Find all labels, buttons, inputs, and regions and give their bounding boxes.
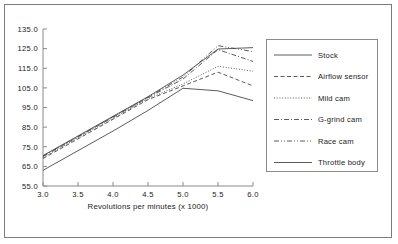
y-axis-group: 55.065.075.085.095.0105.0115.0125.0135.0 (17, 25, 47, 191)
legend-label-g-grind-cam: G-grind cam (318, 115, 362, 124)
legend-label-mild-cam: Mild cam (318, 94, 350, 103)
series-line-mild-cam (43, 66, 253, 157)
y-axis-ticks (43, 29, 47, 186)
legend-label-stock: Stock (318, 51, 338, 60)
legend-label-throttle-body: Throttle body (318, 158, 365, 167)
y-tick-label: 105.0 (17, 84, 38, 93)
y-tick-label: 135.0 (17, 25, 38, 34)
x-tick-label: 4.0 (107, 190, 118, 199)
x-tick-label: 5.0 (177, 190, 188, 199)
legend: StockAirflow sensorMild camG-grind camRa… (267, 40, 378, 172)
plot-series-group (43, 46, 253, 171)
y-tick-label: 65.0 (22, 162, 38, 171)
series-line-airflow-sensor (43, 72, 253, 158)
x-axis-group: 3.03.54.04.55.05.56.0 Revolutions per mi… (37, 182, 258, 211)
x-tick-label: 3.0 (37, 190, 48, 199)
y-tick-label: 55.0 (22, 182, 38, 191)
legend-label-race-cam: Race cam (318, 137, 354, 146)
x-tick-label: 4.5 (142, 190, 153, 199)
y-tick-label: 125.0 (17, 44, 38, 53)
y-tick-label: 85.0 (22, 123, 38, 132)
legend-label-airflow-sensor: Airflow sensor (318, 72, 369, 81)
y-tick-label: 95.0 (22, 103, 38, 112)
line-chart: 55.065.075.085.095.0105.0115.0125.0135.0… (0, 0, 398, 244)
x-axis-ticks (43, 182, 253, 186)
x-axis-tick-labels: 3.03.54.04.55.05.56.0 (37, 190, 258, 199)
x-tick-label: 3.5 (72, 190, 83, 199)
x-tick-label: 5.5 (212, 190, 223, 199)
x-tick-label: 6.0 (247, 190, 258, 199)
y-axis-tick-labels: 55.065.075.085.095.0105.0115.0125.0135.0 (17, 25, 38, 191)
x-axis-title: Revolutions per minutes (x 1000) (88, 202, 209, 211)
series-line-stock (43, 88, 253, 170)
series-line-throttle-body (43, 48, 253, 156)
y-tick-label: 75.0 (22, 143, 38, 152)
series-line-race-cam (43, 46, 253, 156)
y-tick-label: 115.0 (18, 64, 38, 73)
